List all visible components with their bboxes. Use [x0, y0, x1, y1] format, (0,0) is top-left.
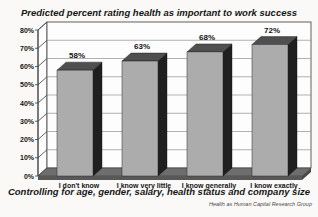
- chart-caption: Controlling for age, gender, salary, hea…: [0, 186, 318, 197]
- y-tick-label: 0%: [24, 173, 35, 180]
- bar-value-label: 58%: [69, 51, 85, 60]
- chart-figure: Predicted percent rating health as impor…: [0, 0, 318, 217]
- bar-value-label: 63%: [134, 42, 150, 51]
- bar-front-face: [187, 52, 223, 176]
- y-tick-label: 40%: [20, 100, 35, 107]
- y-tick-label: 70%: [20, 45, 35, 52]
- y-tick-label: 80%: [20, 27, 35, 34]
- y-tick-label: 30%: [20, 118, 35, 125]
- bar-front-face: [57, 70, 93, 176]
- credit-text: Health as Human Capital Research Group: [209, 201, 312, 207]
- bar-side-face: [223, 44, 232, 176]
- bar-value-label: 72%: [264, 26, 280, 35]
- y-tick-label: 60%: [20, 63, 35, 70]
- y-tick-label: 50%: [20, 81, 35, 88]
- bar-chart: 0%10%20%30%40%50%60%70%80%58%I don't kno…: [0, 0, 318, 217]
- bar-side-face: [93, 62, 102, 176]
- bar-side-face: [158, 53, 167, 176]
- bar-side-face: [288, 37, 297, 176]
- bar-front-face: [252, 45, 288, 176]
- bar-value-label: 68%: [199, 33, 215, 42]
- y-tick-label: 20%: [20, 136, 35, 143]
- chart-floor-front: [38, 176, 302, 180]
- y-tick-label: 10%: [20, 154, 35, 161]
- bar-front-face: [122, 61, 158, 176]
